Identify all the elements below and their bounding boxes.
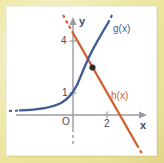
y-tick-label-1: 1 bbox=[62, 88, 68, 98]
h-function-label: h(x) bbox=[111, 91, 128, 101]
y-tick-label-4: 4 bbox=[61, 36, 67, 46]
x-axis-label: x bbox=[140, 120, 146, 131]
g-function-label: g(x) bbox=[113, 24, 130, 34]
intersection-point bbox=[89, 64, 95, 70]
g-curve-dashed-lower-left bbox=[9, 110, 20, 111]
plot-area: y x O 4 1 2 g(x) h(x) bbox=[7, 7, 156, 155]
h-curve-dashed-lower bbox=[137, 145, 144, 155]
y-axis-label: y bbox=[79, 16, 85, 27]
figure-frame: y x O 4 1 2 g(x) h(x) bbox=[0, 0, 164, 163]
x-axis-arrow bbox=[139, 111, 147, 118]
g-curve-dashed-upper bbox=[108, 15, 112, 23]
y-axis-arrow bbox=[69, 17, 76, 25]
graph-svg bbox=[7, 7, 156, 155]
x-tick-label-2: 2 bbox=[104, 119, 110, 129]
origin-label: O bbox=[62, 117, 70, 127]
